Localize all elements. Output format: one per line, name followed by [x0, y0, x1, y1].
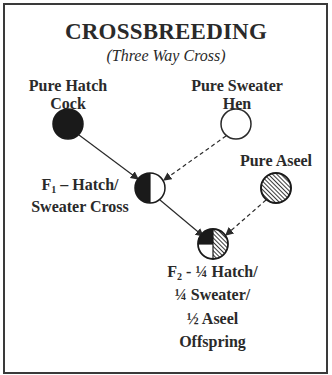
edge-aseel-to-f2	[226, 200, 266, 235]
cross-diagram	[0, 0, 332, 375]
edge-f1-to-f2	[160, 200, 203, 236]
hatch-cock-node	[53, 109, 83, 139]
edge-hatch-to-f1	[79, 135, 138, 179]
sweater-hen-node	[221, 109, 251, 139]
f2-node	[198, 229, 228, 259]
aseel-node	[261, 173, 291, 203]
f1-node	[135, 173, 165, 203]
edge-sweater-to-f1	[164, 136, 226, 180]
